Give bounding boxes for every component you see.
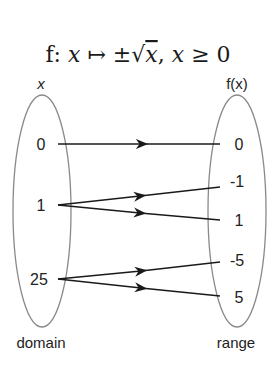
domain-header: x (36, 75, 45, 92)
mapping-arrow (58, 205, 220, 220)
range-value: 0 (235, 136, 244, 153)
domain-value: 0 (37, 136, 46, 153)
sqrt-symbol: √ (131, 42, 146, 67)
domain-value: 25 (30, 271, 48, 288)
mapping-diagram: f: x ↦ ±√x, x ≥ 0 x f(x) 0 1 25 0 -1 1 -… (0, 0, 271, 375)
domain-caption: domain (16, 334, 65, 351)
range-value: -1 (230, 173, 244, 190)
range-value: 1 (235, 212, 244, 229)
mapping-arrow (58, 279, 220, 296)
mapping-arrow (58, 262, 220, 279)
range-value: -5 (230, 252, 244, 269)
range-header: f(x) (226, 75, 248, 92)
range-value: 5 (235, 289, 244, 306)
range-caption: range (217, 334, 255, 351)
domain-value: 1 (37, 197, 46, 214)
mapping-arrow (58, 187, 220, 205)
function-title: f: x ↦ ±√x, x ≥ 0 (45, 42, 230, 67)
